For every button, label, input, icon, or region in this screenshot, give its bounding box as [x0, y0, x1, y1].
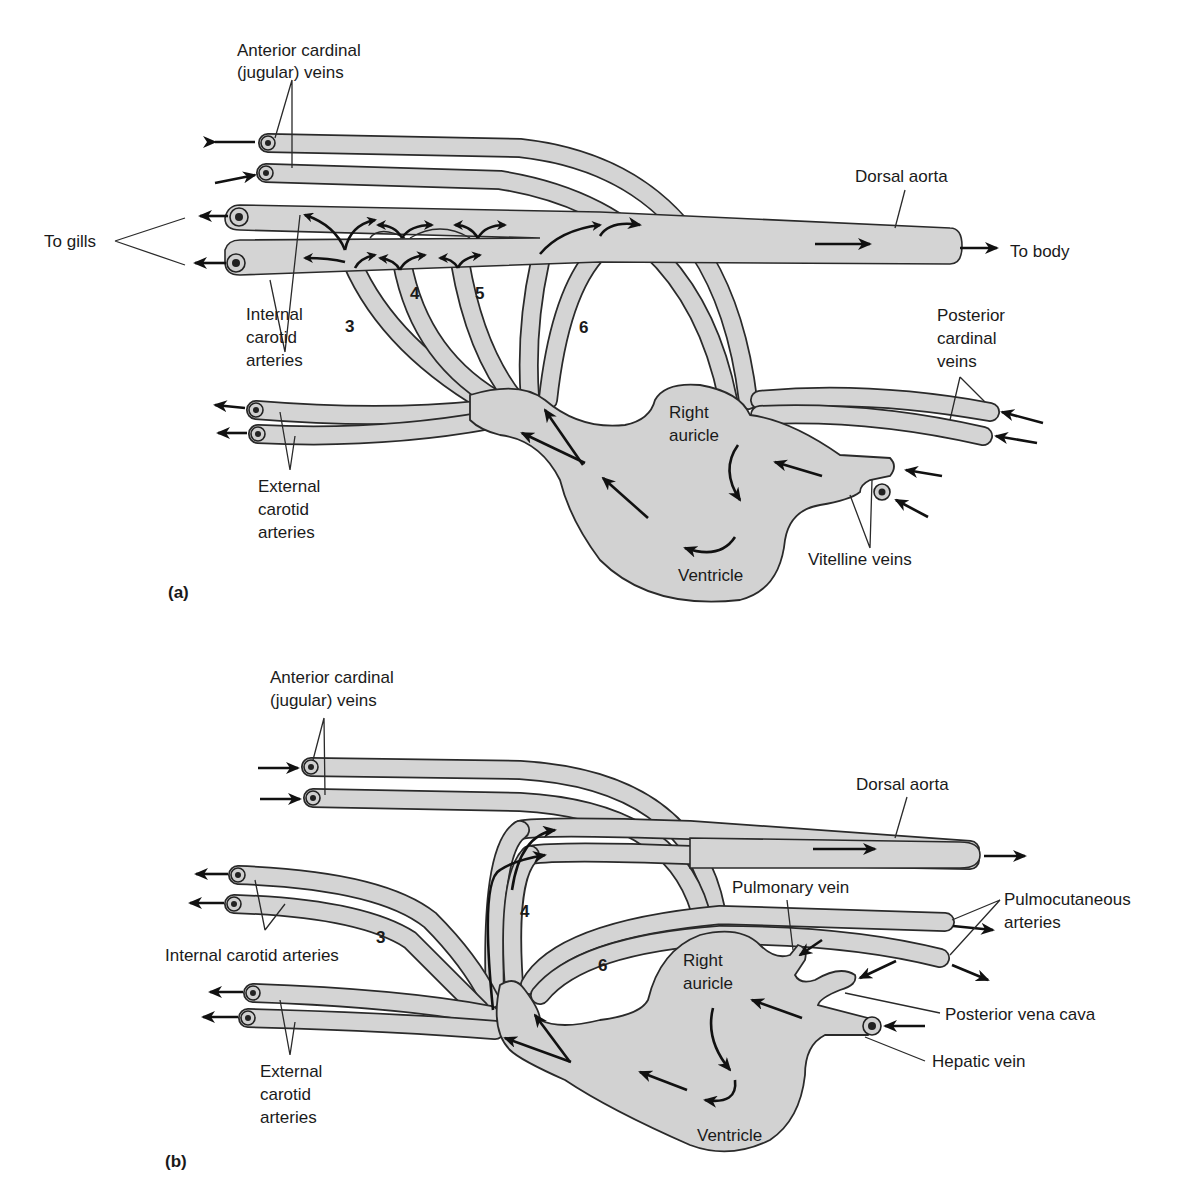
arch-number-3-b: 3 [376, 928, 385, 947]
flow-arrows-a [195, 142, 1043, 552]
label-hepatic-vein: Hepatic vein [932, 1052, 1026, 1071]
arch-number-3-a: 3 [345, 317, 354, 336]
label-posterior-cardinal-a2: cardinal [937, 329, 997, 348]
label-posterior-cardinal-a3: veins [937, 352, 977, 371]
aortic-arches-a [352, 250, 600, 410]
label-anterior-cardinal-b2: (jugular) veins [270, 691, 377, 710]
label-right-auricle-b2: auricle [683, 974, 733, 993]
label-internal-carotid-b: Internal carotid arteries [165, 946, 339, 965]
label-dorsal-aorta-b: Dorsal aorta [856, 775, 949, 794]
label-external-carotid-b1: External [260, 1062, 322, 1081]
label-to-gills: To gills [44, 232, 96, 251]
label-right-auricle-a2: auricle [669, 426, 719, 445]
label-to-body: To body [1010, 242, 1070, 261]
label-posterior-cardinal-a1: Posterior [937, 306, 1005, 325]
panel-label-b: (b) [165, 1152, 187, 1171]
label-anterior-cardinal-b1: Anterior cardinal [270, 668, 394, 687]
external-carotid-arteries-a [249, 403, 490, 441]
label-right-auricle-a1: Right [669, 403, 709, 422]
label-anterior-cardinal-a1: Anterior cardinal [237, 41, 361, 60]
arch-number-4-b: 4 [520, 902, 530, 921]
circulation-diagram: Anterior cardinal (jugular) veins To gil… [0, 0, 1181, 1187]
label-external-carotid-a2: carotid [258, 500, 309, 519]
label-right-auricle-b1: Right [683, 951, 723, 970]
arch-number-4-a: 4 [410, 284, 420, 303]
panel-b: Anterior cardinal (jugular) veins Dorsal… [165, 668, 1131, 1171]
label-pulmonary-vein: Pulmonary vein [732, 878, 849, 897]
label-ventricle-a: Ventricle [678, 566, 743, 585]
dorsal-aorta-b [520, 828, 980, 869]
label-posterior-vena-cava: Posterior vena cava [945, 1005, 1096, 1024]
label-anterior-cardinal-a2: (jugular) veins [237, 63, 344, 82]
label-vitelline-veins: Vitelline veins [808, 550, 912, 569]
arch-number-6-b: 6 [598, 956, 607, 975]
panel-a: Anterior cardinal (jugular) veins To gil… [44, 41, 1070, 602]
label-internal-carotid-a3: arteries [246, 351, 303, 370]
label-ventricle-b: Ventricle [697, 1126, 762, 1145]
label-pulmocutaneous-1: Pulmocutaneous [1004, 890, 1131, 909]
panel-label-a: (a) [168, 583, 189, 602]
label-dorsal-aorta-a: Dorsal aorta [855, 167, 948, 186]
label-pulmocutaneous-2: arteries [1004, 913, 1061, 932]
label-external-carotid-b3: arteries [260, 1108, 317, 1127]
arch-number-5-a: 5 [475, 284, 484, 303]
label-internal-carotid-a1: Internal [246, 305, 303, 324]
label-external-carotid-b2: carotid [260, 1085, 311, 1104]
label-internal-carotid-a2: carotid [246, 328, 297, 347]
arch-number-6-a: 6 [579, 318, 588, 337]
label-external-carotid-a1: External [258, 477, 320, 496]
label-external-carotid-a3: arteries [258, 523, 315, 542]
